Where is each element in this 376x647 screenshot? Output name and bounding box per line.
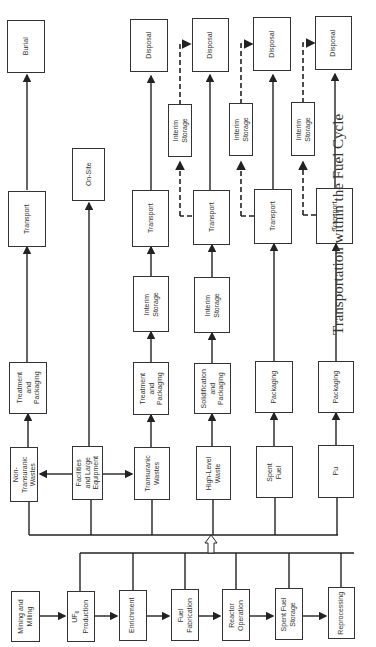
node-fuel-fabrication: Fuel Fabrication — [171, 589, 199, 641]
node-interim-storage-dashed-2: Interim Storage — [229, 103, 253, 156]
node-disposal-spent-fuel: Disposal — [253, 17, 291, 71]
node-spent-fuel-storage: Spent Fuel Storage — [275, 588, 303, 640]
node-on-site: On-Site — [72, 148, 105, 201]
node-spent-fuel: Spent Fuel — [256, 446, 293, 498]
node-burial: Burial — [7, 20, 45, 73]
figure-caption: Transportation within the Fuel Cycle — [330, 114, 347, 335]
node-non-transuranic-wastes: Non- Transuranic Wastes — [10, 447, 38, 502]
connector-lines — [0, 0, 376, 647]
node-treatment-packaging-2: Treatment and Packaging — [133, 362, 169, 415]
node-interim-storage-hlw: Interim Storage — [194, 277, 230, 333]
node-transport-spent-fuel: Transport — [254, 189, 292, 244]
node-interim-storage-tru: Interim Storage — [133, 276, 169, 332]
node-solidification-packaging: Solidification and Packaging — [194, 363, 231, 414]
node-disposal-tru: Disposal — [130, 19, 168, 72]
node-reactor-operation: Reactor Operation — [222, 589, 250, 641]
node-treatment-packaging-1: Treatment and Packaging — [9, 362, 47, 414]
node-transport-tru: Transport — [132, 190, 169, 247]
node-packaging-spent-fuel: Packaging — [255, 361, 293, 413]
node-transuranic-wastes: Transuranic Wastes — [134, 447, 170, 500]
node-interim-storage-dashed-1: Interim Storage — [168, 104, 192, 157]
node-reprocessing: Reprocessing — [328, 587, 355, 639]
node-mining-milling: Mining and Milling — [11, 591, 40, 642]
node-disposal-pu: Disposal — [315, 16, 352, 70]
node-transport-hlw: Transport — [193, 190, 230, 245]
node-transport-non-tru: Transport — [8, 191, 46, 247]
node-packaging-pu: Packaging — [318, 361, 354, 413]
node-interim-storage-dashed-3: Interim Storage — [291, 102, 315, 156]
node-disposal-hlw: Disposal — [192, 18, 229, 72]
node-uf6-production: UF6 Production — [67, 591, 95, 642]
node-pu: Pu — [318, 445, 354, 498]
node-enrichment: Enrichment — [119, 590, 147, 641]
node-facilities-equipment: Facilities and Large Equipment — [72, 446, 103, 500]
node-high-level-waste: High-Level Waste — [196, 446, 231, 500]
